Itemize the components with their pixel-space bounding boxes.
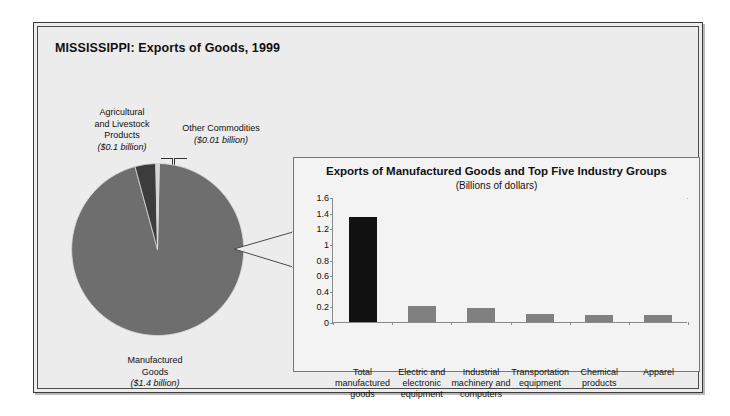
bar-2 [408,306,436,322]
y-axis-tick-mark [330,307,333,308]
x-axis-tick-mark [511,322,512,325]
x-axis-origin-tick-mark [333,322,334,325]
bar-6 [644,315,672,322]
x-axis-tick-mark [451,322,452,325]
pie-label-agricultural: Agricultural and Livestock Products ($0.… [76,107,168,153]
y-axis-tick-label: 0.2 [316,302,329,312]
bar-1 [349,217,377,322]
y-axis-tick-mark [330,261,333,262]
x-axis-category-label-line: Apparel [629,367,688,378]
x-axis-category-label: Chemicalproducts [570,367,629,389]
y-axis-tick-mark [330,245,333,246]
y-axis-tick-label: 1.6 [316,193,329,203]
pie-chart-svg [71,163,244,336]
figure-inner-frame: MISSISSIPPI: Exports of Goods, 1999 Agri… [37,26,699,389]
x-axis-category-label-line: equipment [511,378,570,389]
y-axis-tick-label: 0 [324,318,329,328]
y-axis-tick-mark [330,292,333,293]
x-axis-category-label-line: goods [333,389,392,400]
x-axis-category-label-line: Total [333,367,392,378]
bar-chart-plot-area: 00.20.40.60.811.21.41.6Totalmanufactured… [332,198,687,323]
y-axis-tick-mark [330,229,333,230]
x-axis-tick-mark [570,322,571,325]
pie-chart [71,163,244,336]
y-axis-tick-label: 0.8 [316,256,329,266]
pie-label-manufactured-goods: Manufactured Goods ($1.4 billion) [95,355,215,390]
x-axis-category-label-line: products [570,378,629,389]
x-axis-category-label: Totalmanufacturedgoods [333,367,392,400]
figure-outer-frame: MISSISSIPPI: Exports of Goods, 1999 Agri… [33,22,703,393]
pie-label-manufactured-line2: Goods [95,367,215,379]
pie-label-manufactured-amount: ($1.4 billion) [95,378,215,390]
y-axis-tick-mark [330,198,333,199]
x-axis-category-label: Transportationequipment [511,367,570,389]
x-axis-category-label-line: equipment [392,389,451,400]
bar-chart-panel: Exports of Manufactured Goods and Top Fi… [293,157,700,372]
bar-4 [526,314,554,322]
y-axis-tick-mark [330,214,333,215]
pie-label-other-commodities: Other Commodities ($0.01 billion) [168,123,274,146]
y-axis-tick-label: 1.2 [316,224,329,234]
bar-chart-subtitle: (Billions of dollars) [294,180,699,191]
x-axis-category-label-line: Chemical [570,367,629,378]
pie-label-manufactured-line1: Manufactured [95,355,215,367]
pie-label-agricultural-line2: and Livestock [76,119,168,131]
x-axis-category-label-line: computers [451,389,510,400]
y-axis-tick-label: 0.6 [316,271,329,281]
y-axis-tick-label: 0.4 [316,287,329,297]
figure-title: MISSISSIPPI: Exports of Goods, 1999 [55,41,280,55]
pie-label-other-line1: Other Commodities [168,123,274,135]
x-axis-category-label: Electric andelectronicequipment [392,367,451,400]
y-axis-tick-mark [330,276,333,277]
x-axis-category-label-line: Electric and [392,367,451,378]
x-axis-tick-mark [392,322,393,325]
bar-chart-title: Exports of Manufactured Goods and Top Fi… [294,165,699,177]
x-axis-tick-mark [688,322,689,325]
bar-5 [585,315,613,322]
x-axis-category-label-line: Transportation [511,367,570,378]
pie-label-agricultural-line1: Agricultural [76,107,168,119]
x-axis-category-label-line: machinery and [451,378,510,389]
x-axis-category-label: Apparel [629,367,688,378]
pie-chart-section: Agricultural and Livestock Products ($0.… [48,87,303,387]
bar-3 [467,308,495,322]
y-axis-tick-label: 1.4 [316,209,329,219]
y-axis-tick-label: 1 [324,240,329,250]
x-axis-category-label-line: manufactured [333,378,392,389]
pie-label-agricultural-amount: ($0.1 billion) [76,142,168,154]
pie-label-other-amount: ($0.01 billion) [168,135,274,147]
leader-line-other-horizontal [174,158,187,159]
x-axis-tick-mark [629,322,630,325]
x-axis-category-label: Industrialmachinery andcomputers [451,367,510,400]
pie-label-agricultural-line3: Products [76,130,168,142]
figure-root: MISSISSIPPI: Exports of Goods, 1999 Agri… [0,0,730,416]
x-axis-category-label-line: Industrial [451,367,510,378]
x-axis-category-label-line: electronic [392,378,451,389]
